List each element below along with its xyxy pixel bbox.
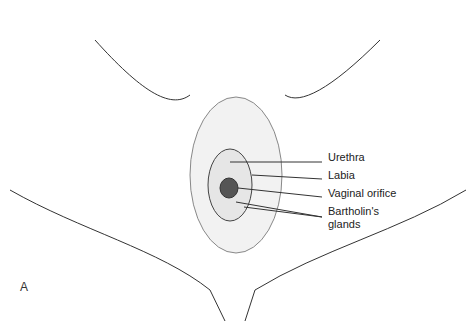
label-vaginal-orifice: Vaginal orifice bbox=[328, 187, 396, 199]
contour-left-lower bbox=[10, 190, 225, 321]
anatomical-diagram: Urethra Labia Vaginal orifice Bartholin'… bbox=[0, 0, 476, 321]
orifice-shape bbox=[220, 178, 238, 198]
label-glands: glands bbox=[328, 218, 360, 230]
label-urethra: Urethra bbox=[328, 151, 365, 163]
contour-right-upper bbox=[285, 40, 380, 98]
panel-letter: A bbox=[20, 280, 28, 294]
label-bartholins: Bartholin's bbox=[328, 205, 379, 217]
label-labia: Labia bbox=[328, 169, 355, 181]
contour-left-upper bbox=[95, 40, 190, 100]
line-illustration bbox=[0, 0, 476, 321]
